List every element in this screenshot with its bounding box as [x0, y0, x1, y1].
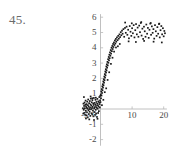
data-point	[132, 32, 134, 34]
data-point	[163, 35, 165, 37]
data-point	[108, 60, 110, 62]
data-point	[104, 77, 106, 79]
figure-container: 45. -510206543210-1-2	[0, 0, 174, 150]
data-point	[91, 101, 93, 103]
data-point	[130, 31, 132, 33]
data-point	[146, 33, 148, 35]
data-point	[110, 63, 112, 65]
data-point	[155, 30, 157, 32]
data-point	[95, 105, 97, 107]
data-point	[105, 72, 107, 74]
data-point	[108, 71, 110, 73]
data-point	[85, 100, 87, 102]
data-point	[92, 106, 94, 108]
data-point	[97, 98, 99, 100]
data-point	[161, 33, 163, 35]
data-point	[93, 104, 95, 106]
y-tick-label: 0	[83, 110, 97, 119]
data-point	[98, 110, 100, 112]
data-point	[115, 47, 117, 49]
data-point	[130, 35, 132, 37]
data-point	[104, 79, 106, 81]
data-point	[144, 30, 146, 32]
data-point	[142, 38, 144, 40]
y-tick-label: -2	[83, 135, 97, 144]
data-point	[127, 34, 129, 36]
data-point	[105, 88, 107, 90]
data-point	[100, 101, 102, 103]
data-point	[156, 35, 158, 37]
data-point	[128, 41, 130, 43]
data-point	[136, 33, 138, 35]
data-point	[141, 35, 143, 37]
data-point	[97, 112, 99, 114]
data-point	[99, 107, 101, 109]
data-point	[138, 36, 140, 38]
y-tick-label: 2	[83, 74, 97, 83]
data-point	[116, 37, 118, 39]
x-tick-label: 20	[154, 111, 174, 120]
data-point	[102, 99, 104, 101]
data-point	[112, 48, 114, 50]
data-point	[157, 33, 159, 35]
data-point	[107, 65, 109, 67]
data-point	[128, 37, 130, 39]
data-point	[161, 42, 163, 44]
data-point	[103, 82, 105, 84]
data-point	[160, 25, 162, 27]
data-point	[119, 33, 121, 35]
data-point	[106, 67, 108, 69]
data-point	[113, 46, 115, 48]
data-point	[112, 57, 114, 59]
data-point	[115, 41, 117, 43]
data-point	[101, 92, 103, 94]
data-point	[140, 21, 142, 23]
data-point	[135, 23, 137, 25]
data-point	[145, 36, 147, 38]
data-point	[131, 27, 133, 29]
data-point	[143, 40, 145, 42]
data-point	[123, 36, 125, 38]
data-point	[154, 24, 156, 26]
data-point	[137, 27, 139, 29]
data-point	[117, 45, 119, 47]
data-point	[150, 34, 152, 36]
data-point	[158, 23, 160, 25]
data-point	[119, 36, 121, 38]
data-point	[94, 102, 96, 104]
data-point	[99, 100, 101, 102]
data-point	[103, 84, 105, 86]
data-point	[85, 105, 87, 107]
data-point	[110, 53, 112, 55]
data-point	[151, 26, 153, 28]
data-point	[121, 30, 123, 32]
data-point	[113, 51, 115, 53]
data-point	[110, 55, 112, 57]
data-point	[163, 30, 165, 32]
data-point	[142, 28, 144, 30]
data-point	[109, 57, 111, 59]
data-point	[104, 91, 106, 93]
data-point	[153, 38, 155, 40]
data-point	[117, 35, 119, 37]
data-point	[111, 50, 113, 52]
data-point	[86, 101, 88, 103]
data-point	[102, 87, 104, 89]
data-point	[115, 43, 117, 45]
data-point	[159, 37, 161, 39]
data-point	[84, 102, 86, 104]
data-point	[118, 38, 120, 40]
data-point	[123, 28, 125, 30]
data-point	[133, 24, 135, 26]
data-point	[153, 28, 155, 30]
data-point	[99, 103, 101, 105]
data-point	[147, 27, 149, 29]
y-tick-label: 1	[83, 89, 97, 98]
y-tick-label: 5	[83, 28, 97, 37]
data-point	[114, 44, 116, 46]
data-point	[138, 25, 140, 27]
data-point	[164, 32, 166, 34]
y-tick-label: 3	[83, 59, 97, 68]
y-tick-label: 4	[83, 43, 97, 52]
data-point	[102, 89, 104, 91]
